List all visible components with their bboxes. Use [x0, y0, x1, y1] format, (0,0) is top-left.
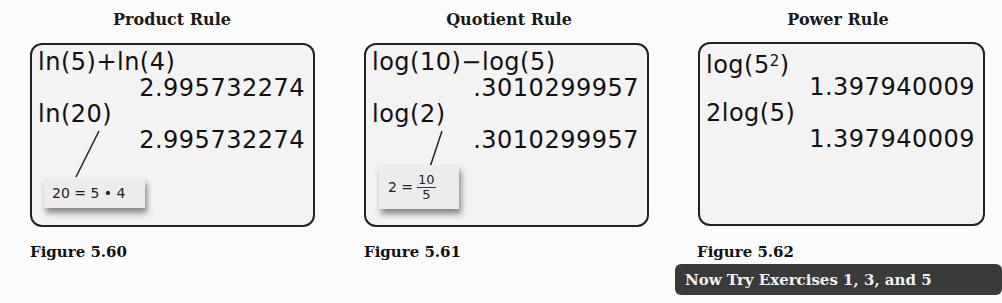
exponent: 2 — [770, 52, 780, 70]
screen-entry: ln(20) — [38, 101, 305, 127]
screen-result: 2.995732274 — [38, 75, 305, 101]
screen-result: 1.397940009 — [706, 126, 975, 152]
calculator-screen: log(10)−log(5) .3010299957 log(2) .30102… — [364, 43, 649, 227]
screen-entry: log(2) — [372, 101, 639, 127]
panel-title: Power Rule — [688, 10, 988, 29]
leader-line — [72, 129, 102, 179]
screen-entry: log(10)−log(5) — [372, 49, 639, 75]
callout-note: 2 = 10 5 — [379, 165, 459, 209]
panel-title: Quotient Rule — [359, 10, 659, 29]
callout-lhs: 2 = — [388, 179, 413, 195]
panel-title: Product Rule — [22, 10, 322, 29]
screen-entry: 2log(5) — [706, 100, 975, 126]
calculator-screen: log(52) 1.397940009 2log(5) 1.397940009 — [698, 42, 985, 226]
figure-label: Figure 5.61 — [364, 243, 461, 261]
callout-note: 20 = 5 • 4 — [44, 178, 145, 208]
screen-entry: ln(5)+ln(4) — [38, 49, 305, 75]
screen-result: 1.397940009 — [706, 74, 975, 100]
calculator-screen: ln(5)+ln(4) 2.995732274 ln(20) 2.9957322… — [30, 43, 315, 227]
figure-label: Figure 5.62 — [697, 243, 794, 261]
fraction-numerator: 10 — [417, 173, 436, 188]
now-try-exercises-banner: Now Try Exercises 1, 3, and 5 — [675, 264, 1002, 295]
screen-result: .3010299957 — [372, 75, 639, 101]
screen-result: .3010299957 — [372, 127, 639, 153]
leader-line — [426, 129, 446, 169]
fraction-denominator: 5 — [422, 188, 430, 202]
fraction: 10 5 — [417, 173, 436, 202]
figure-label: Figure 5.60 — [30, 243, 127, 261]
